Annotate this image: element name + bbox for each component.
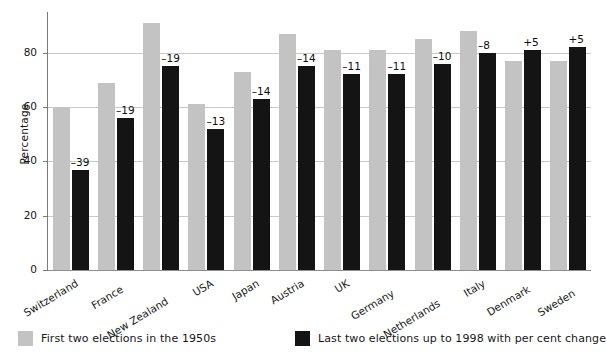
legend-label: First two elections in the 1950s xyxy=(41,332,216,345)
y-tick-label-80: 80 xyxy=(11,47,37,58)
plot-area: –39–19–19–13–14–14–11–11–10–8+5+5 xyxy=(48,12,591,270)
bar-last-denmark xyxy=(524,50,541,270)
legend-label: Last two elections up to 1998 with per c… xyxy=(318,332,606,345)
bar-first-netherlands xyxy=(415,39,432,270)
y-tickmark-0 xyxy=(43,270,48,271)
y-tick-label-40: 40 xyxy=(11,155,37,166)
legend-entry-first-elections: First two elections in the 1950s xyxy=(18,331,216,346)
y-tick-label-20: 20 xyxy=(11,210,37,221)
bar-first-germany xyxy=(369,50,386,270)
chart-legend: First two elections in the 1950sLast two… xyxy=(0,331,598,355)
legend-swatch-icon-first xyxy=(18,331,33,346)
bar-value-label-uk: –11 xyxy=(342,60,361,72)
x-axis-baseline xyxy=(47,270,591,271)
y-tick-label-60: 60 xyxy=(11,101,37,112)
bar-first-denmark xyxy=(505,61,522,270)
bar-last-netherlands xyxy=(434,64,451,270)
bar-value-label-italy: –8 xyxy=(478,39,490,51)
bar-last-uk xyxy=(343,74,360,270)
bar-first-france xyxy=(98,83,115,270)
bar-value-label-france: –19 xyxy=(116,104,135,116)
bar-first-sweden xyxy=(550,61,567,270)
bar-first-new-zealand xyxy=(143,23,160,270)
bar-last-france xyxy=(117,118,134,270)
bar-last-sweden xyxy=(569,47,586,270)
bar-value-label-netherlands: –10 xyxy=(433,50,452,62)
bar-last-italy xyxy=(479,53,496,270)
bar-first-japan xyxy=(234,72,251,270)
bar-last-germany xyxy=(388,74,405,270)
bar-value-label-japan: –14 xyxy=(252,85,271,97)
bar-value-label-new-zealand: –19 xyxy=(161,52,180,64)
bar-first-usa xyxy=(188,104,205,270)
bar-value-label-germany: –11 xyxy=(387,60,406,72)
y-tick-label-0: 0 xyxy=(11,264,37,275)
bar-last-usa xyxy=(207,129,224,270)
bar-value-label-denmark: +5 xyxy=(523,36,539,48)
bar-last-switzerland xyxy=(72,170,89,270)
bar-first-austria xyxy=(279,34,296,270)
legend-entry-last-elections: Last two elections up to 1998 with per c… xyxy=(295,331,606,346)
bar-first-switzerland xyxy=(53,107,70,270)
legend-swatch-icon-last xyxy=(295,331,310,346)
y-axis-title: Percentage xyxy=(18,64,30,204)
bar-value-label-switzerland: –39 xyxy=(71,156,90,168)
bar-first-uk xyxy=(324,50,341,270)
bar-value-label-sweden: +5 xyxy=(568,33,584,45)
bar-last-japan xyxy=(253,99,270,270)
bar-value-label-austria: –14 xyxy=(297,52,316,64)
bar-last-austria xyxy=(298,66,315,270)
bar-first-italy xyxy=(460,31,477,270)
bar-value-label-usa: –13 xyxy=(206,115,225,127)
bar-last-new-zealand xyxy=(162,66,179,270)
